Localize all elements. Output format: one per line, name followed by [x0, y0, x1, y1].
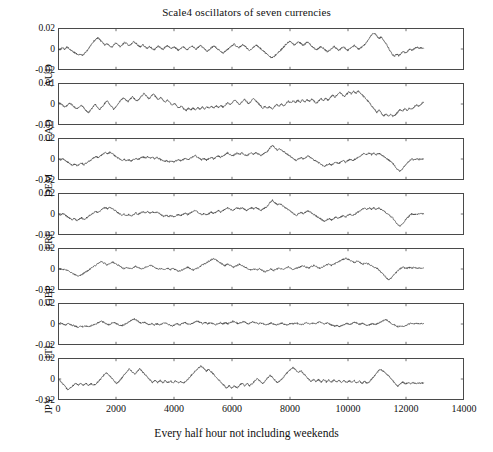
y-tick-label: 0.02 [38, 133, 55, 143]
x-tick-label: 0 [56, 403, 61, 414]
y-tick-label: -0.02 [35, 65, 55, 75]
figure-title: Scale4 oscillators of seven currencies [0, 6, 493, 18]
series-line-jpy [58, 366, 423, 390]
y-tick-label: -0.01 [35, 120, 55, 130]
plot-area [58, 358, 464, 400]
y-tick-label: 0.02 [38, 298, 55, 308]
x-tick-label: 8000 [280, 403, 300, 414]
y-tick-label: -0.02 [35, 285, 55, 295]
series-line-itl [58, 318, 423, 327]
y-axis-label-frf: FRF [43, 220, 54, 262]
x-tick-label: 4000 [164, 403, 184, 414]
figure-canvas: Scale4 oscillators of seven currencies A… [0, 0, 493, 452]
subplot-aud: AUD0.020-0.02 [58, 28, 464, 70]
subplot-itl: ITL0.020-0.02 [58, 303, 464, 345]
plot-area [58, 303, 464, 345]
series-line-aud [58, 33, 423, 58]
y-tick-label: 0 [50, 209, 55, 219]
y-tick-label: 0.02 [38, 353, 55, 363]
y-tick-label: 0 [50, 44, 55, 54]
y-tick-label: -0.02 [35, 230, 55, 240]
y-tick-label: 0 [50, 319, 55, 329]
y-tick-label: 0 [50, 99, 55, 109]
x-tick-label: 14000 [452, 403, 477, 414]
plot-area [58, 138, 464, 180]
plot-area [58, 28, 464, 70]
y-axis-label-cad: CAD [43, 110, 54, 152]
y-tick-label: 0 [50, 264, 55, 274]
y-tick-label: -0.02 [35, 340, 55, 350]
x-tick-label: 6000 [222, 403, 242, 414]
x-tick-label: 2000 [106, 403, 126, 414]
y-tick-label: 0 [50, 374, 55, 384]
plot-area [58, 193, 464, 235]
series-line-cad [58, 91, 423, 117]
y-tick-label: 0.02 [38, 243, 55, 253]
plot-area [58, 248, 464, 290]
subplot-jpy: JPY0.020-0.02020004000600080001000012000… [58, 358, 464, 400]
series-line-frf [58, 200, 423, 227]
x-tick-label: 12000 [394, 403, 419, 414]
x-tick-label: 10000 [336, 403, 361, 414]
y-tick-label: 0.02 [38, 188, 55, 198]
subplot-gbp: GBP0.020-0.02 [58, 248, 464, 290]
subplot-cad: CAD0.010-0.01 [58, 83, 464, 125]
plot-area [58, 83, 464, 125]
subplot-frf: FRF0.020-0.02 [58, 193, 464, 235]
y-axis-label-dem: DEM [43, 165, 54, 207]
series-line-dem [58, 145, 423, 172]
y-tick-label: 0.01 [38, 78, 55, 88]
subplot-dem: DEM0.020-0.02 [58, 138, 464, 180]
y-tick-label: -0.02 [35, 175, 55, 185]
y-tick-label: 0 [50, 154, 55, 164]
y-axis-label-gbp: GBP [43, 275, 54, 317]
series-line-gbp [58, 258, 423, 280]
y-tick-label: 0.02 [38, 23, 55, 33]
y-axis-label-itl: ITL [43, 330, 54, 372]
x-axis-label: Every half hour not including weekends [0, 427, 493, 439]
y-tick-label: -0.02 [35, 395, 55, 405]
y-axis-label-aud: AUD [43, 55, 54, 97]
y-axis-label-jpy: JPY [43, 385, 54, 427]
